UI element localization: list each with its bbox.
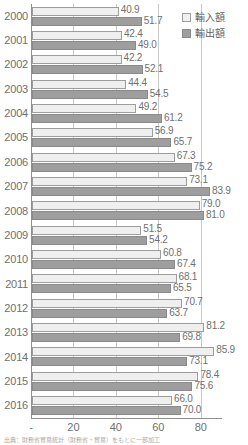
bar-import-2004[interactable] [32, 104, 136, 113]
bar-export-2008[interactable] [32, 211, 204, 220]
bar-import-2007[interactable] [32, 177, 187, 186]
bar-group: 42.252.1 [32, 54, 222, 78]
bar-value-label: 81.0 [206, 210, 225, 220]
bar-value-label: 67.3 [177, 151, 196, 161]
bar-export-2004[interactable] [32, 114, 162, 123]
bar-import-2002[interactable] [32, 55, 122, 64]
bar-value-label: 65.5 [173, 283, 192, 293]
bar-value-label: 49.0 [138, 40, 157, 50]
bar-export-2007[interactable] [32, 187, 210, 196]
bar-group: 67.375.2 [32, 152, 222, 176]
bar-value-label: 75.6 [194, 381, 213, 391]
bar-export-2011[interactable] [32, 284, 171, 293]
bar-export-2009[interactable] [32, 236, 147, 245]
bar-value-label: 83.9 [212, 186, 231, 196]
bar-value-label: 63.7 [169, 308, 188, 318]
legend-swatch-import [182, 13, 191, 22]
bar-export-2013[interactable] [32, 333, 180, 342]
category-label-2007: 2007 [0, 181, 28, 192]
legend-item-export[interactable]: 輸出額 [182, 27, 244, 40]
bar-export-2001[interactable] [32, 41, 136, 50]
bar-import-2001[interactable] [32, 31, 122, 40]
category-label-2014: 2014 [0, 352, 28, 363]
bar-export-2006[interactable] [32, 163, 192, 172]
bar-import-2006[interactable] [32, 153, 175, 162]
x-tick-label-40: 40 [110, 422, 122, 433]
bar-group: 49.261.2 [32, 103, 222, 127]
bar-value-label: 56.9 [155, 126, 174, 136]
bar-import-2015[interactable] [32, 372, 198, 381]
bar-import-2011[interactable] [32, 274, 177, 283]
category-label-2006: 2006 [0, 157, 28, 168]
bar-value-label: 65.7 [173, 137, 192, 147]
bar-export-2015[interactable] [32, 382, 192, 391]
bar-import-2003[interactable] [32, 80, 126, 89]
bar-group: 78.475.6 [32, 371, 222, 395]
legend-label-export: 輸出額 [195, 29, 225, 39]
bar-import-2008[interactable] [32, 201, 200, 210]
bar-value-label: 51.5 [143, 224, 162, 234]
bar-value-label: 85.9 [216, 345, 235, 355]
bar-value-label: 44.4 [128, 78, 147, 88]
bar-value-label: 75.2 [194, 162, 213, 172]
bar-value-label: 49.2 [138, 102, 157, 112]
bar-export-2014[interactable] [32, 357, 187, 366]
bar-chart: 40.951.742.449.042.252.144.454.549.261.2… [0, 0, 248, 445]
bar-group: 56.965.7 [32, 127, 222, 151]
category-label-2002: 2002 [0, 59, 28, 70]
bar-import-2010[interactable] [32, 250, 161, 259]
bar-value-label: 73.1 [189, 175, 208, 185]
legend-item-import[interactable]: 輸入額 [182, 11, 244, 24]
bar-group: 85.973.1 [32, 346, 222, 370]
bar-import-2014[interactable] [32, 347, 214, 356]
bar-value-label: 78.4 [200, 370, 219, 380]
bar-value-label: 54.2 [149, 235, 168, 245]
bar-group: 51.554.2 [32, 225, 222, 249]
plot-area: 40.951.742.449.042.252.144.454.549.261.2… [31, 4, 222, 418]
bar-value-label: 69.8 [182, 332, 201, 342]
bar-export-2003[interactable] [32, 90, 148, 99]
bar-value-label: 40.9 [121, 5, 140, 15]
bar-export-2002[interactable] [32, 65, 143, 74]
bar-value-label: 51.7 [144, 16, 163, 26]
category-label-2009: 2009 [0, 230, 28, 241]
category-label-2000: 2000 [0, 11, 28, 22]
category-label-2016: 2016 [0, 400, 28, 411]
bar-group: 60.867.4 [32, 249, 222, 273]
x-tick-label-20: 20 [67, 422, 79, 433]
category-label-2015: 2015 [0, 376, 28, 387]
category-label-2011: 2011 [0, 279, 28, 290]
bar-value-label: 61.2 [164, 113, 183, 123]
bar-import-2009[interactable] [32, 226, 141, 235]
legend-label-import: 輸入額 [195, 13, 225, 23]
bar-value-label: 70.0 [183, 405, 202, 415]
bar-value-label: 79.0 [202, 199, 221, 209]
bar-import-2013[interactable] [32, 323, 204, 332]
source-note: 出典：財務省貿易統計（財務省・貿易）をもとに一部加工 [4, 436, 248, 444]
category-label-2003: 2003 [0, 84, 28, 95]
bar-export-2016[interactable] [32, 406, 181, 415]
bar-group: 66.070.0 [32, 395, 222, 419]
category-label-2005: 2005 [0, 132, 28, 143]
bar-import-2012[interactable] [32, 299, 182, 308]
bar-export-2005[interactable] [32, 138, 171, 147]
bar-export-2012[interactable] [32, 309, 167, 318]
bar-group: 44.454.5 [32, 79, 222, 103]
x-tick-label-60: 60 [152, 422, 164, 433]
bar-value-label: 60.8 [163, 248, 182, 258]
x-tick-label-80: 80 [195, 422, 207, 433]
bar-group: 70.763.7 [32, 298, 222, 322]
bar-value-label: 73.1 [189, 356, 208, 366]
bar-export-2000[interactable] [32, 17, 142, 26]
bar-import-2005[interactable] [32, 128, 153, 137]
x-tick-label-0: - [29, 422, 33, 433]
bar-import-2000[interactable] [32, 7, 119, 16]
bar-value-label: 42.4 [124, 29, 143, 39]
bar-value-label: 67.4 [177, 259, 196, 269]
category-label-2012: 2012 [0, 303, 28, 314]
bar-import-2016[interactable] [32, 396, 172, 405]
category-label-2010: 2010 [0, 254, 28, 265]
bar-value-label: 42.2 [124, 53, 143, 63]
bar-value-label: 52.1 [145, 64, 164, 74]
bar-export-2010[interactable] [32, 260, 175, 269]
